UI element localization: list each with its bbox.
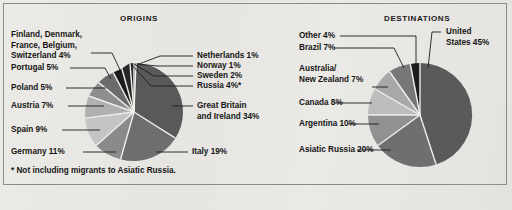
label-united-states: United States 45% (446, 27, 489, 48)
pie-slices-destinations (368, 63, 472, 167)
pie-chart-destinations (0, 0, 512, 210)
label-line-1: Australia/ (299, 64, 336, 73)
label-other: Other 4% (299, 31, 335, 42)
leader-united-states (428, 32, 441, 68)
label-asiatic-russia: Asiatic Russia 20% (299, 145, 374, 156)
leader-other (340, 36, 416, 66)
label-line-2: New Zealand 7% (299, 75, 363, 84)
label-line-1: United (446, 27, 471, 36)
label-australia-new-zealand: Australia/ New Zealand 7% (299, 64, 363, 85)
label-line-2: States 45% (446, 38, 489, 47)
label-brazil: Brazil 7% (299, 43, 335, 54)
label-argentina: Argentina 10% (299, 119, 356, 130)
figure-canvas: ORIGINS DESTINATIONS (0, 0, 512, 210)
label-canada: Canada 8% (299, 98, 343, 109)
